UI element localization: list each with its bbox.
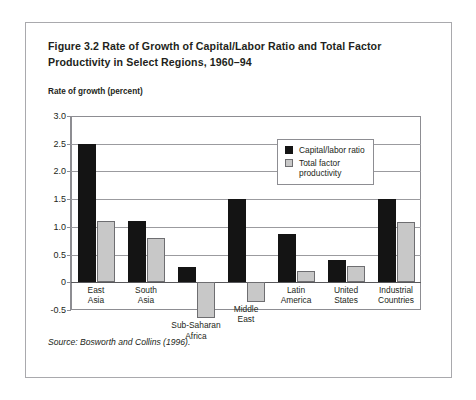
y-axis-caption: Rate of growth (percent): [48, 87, 143, 98]
y-tick-label: 1.0: [53, 222, 66, 232]
bar-total-factor-productivity: [147, 238, 165, 282]
y-tick-mark: [67, 199, 71, 200]
y-tick-mark: [67, 116, 71, 117]
y-tick-label: 3.0: [53, 111, 66, 121]
y-tick-label: 1.5: [53, 194, 66, 204]
chart-legend: Capital/labor ratio Total factor product…: [277, 139, 374, 185]
y-tick-label: 0.5: [53, 250, 66, 260]
bar-capital-labor-ratio: [78, 144, 96, 283]
bar-capital-labor-ratio: [178, 267, 196, 283]
legend-item-capital-labor-ratio: Capital/labor ratio: [285, 145, 365, 155]
category-label: Middle East: [209, 304, 283, 324]
figure-frame: Figure 3.2 Rate of Growth of Capital/Lab…: [25, 22, 452, 378]
bar-capital-labor-ratio: [328, 260, 346, 282]
bar-total-factor-productivity: [297, 271, 315, 282]
y-tick-mark: [67, 144, 71, 145]
y-tick-mark: [67, 171, 71, 172]
legend-swatch-dark-icon: [285, 146, 293, 154]
legend-swatch-light-icon: [285, 159, 293, 167]
legend-label: Capital/labor ratio: [299, 145, 365, 155]
bar-capital-labor-ratio: [278, 234, 296, 283]
y-tick-label: -0.5: [50, 305, 66, 315]
legend-label: Total factor productivity: [299, 158, 341, 178]
bar-capital-labor-ratio: [128, 221, 146, 282]
y-tick-mark: [67, 282, 71, 283]
y-tick-mark: [67, 310, 71, 311]
figure-title: Figure 3.2 Rate of Growth of Capital/Lab…: [48, 39, 420, 70]
gridline: [71, 255, 421, 256]
legend-item-total-factor-productivity: Total factor productivity: [285, 158, 365, 178]
gridline: [71, 227, 421, 228]
y-tick-label: 2.5: [53, 139, 66, 149]
y-tick-mark: [67, 255, 71, 256]
y-tick-mark: [67, 227, 71, 228]
bar-total-factor-productivity: [97, 221, 115, 282]
bar-total-factor-productivity: [347, 266, 365, 283]
source-note: Source: Bosworth and Collins (1996).: [48, 337, 190, 347]
gridline: [71, 199, 421, 200]
y-tick-label: 2.0: [53, 166, 66, 176]
bar-total-factor-productivity: [397, 222, 415, 282]
bar-capital-labor-ratio: [228, 199, 246, 282]
category-label: Industrial Countries: [359, 285, 433, 305]
plot-wrapper: 3.02.52.01.51.00.50-0.5 East AsiaSouth A…: [71, 116, 421, 310]
category-label: South Asia: [109, 285, 183, 305]
bar-capital-labor-ratio: [378, 199, 396, 282]
y-axis-line: [70, 116, 71, 310]
